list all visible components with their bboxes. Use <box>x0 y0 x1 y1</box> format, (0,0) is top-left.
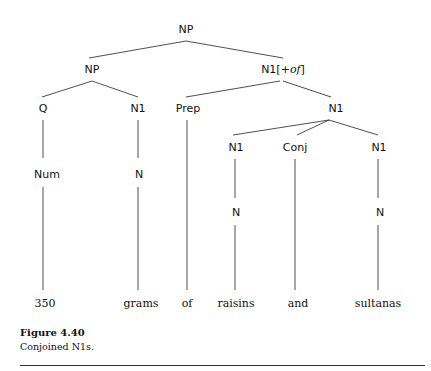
divider <box>20 365 425 366</box>
node-n-raisins: N <box>232 206 240 219</box>
leaf-sultanas: sultanas <box>355 297 402 310</box>
node-n1-plus-of: N1[+of] <box>261 63 305 76</box>
node-n1-right: N1 <box>328 102 343 115</box>
node-n1-left: N1 <box>130 102 145 115</box>
leaf-350: 350 <box>35 297 56 310</box>
node-n-sultanas: N <box>376 206 384 219</box>
parse-tree: NP NP N1[+of] Q N1 Prep N1 N1 Conj N1 Nu… <box>0 0 431 371</box>
leaf-raisins: raisins <box>217 297 255 310</box>
node-conj: Conj <box>283 141 307 154</box>
node-num: Num <box>34 168 60 181</box>
node-q: Q <box>39 102 48 115</box>
node-np: NP <box>85 63 100 76</box>
node-n1-sultanas: N1 <box>371 141 386 154</box>
leaf-grams: grams <box>124 297 159 310</box>
leaf-and: and <box>288 297 309 310</box>
figure-caption: Conjoined N1s. <box>20 341 94 352</box>
leaf-of: of <box>182 297 194 310</box>
node-prep: Prep <box>176 102 200 115</box>
node-n1-raisins: N1 <box>228 141 243 154</box>
figure-label: Figure 4.40 <box>20 327 85 338</box>
node-root-np: NP <box>179 23 194 36</box>
node-n-grams: N <box>135 168 143 181</box>
tree-edges <box>42 41 378 290</box>
